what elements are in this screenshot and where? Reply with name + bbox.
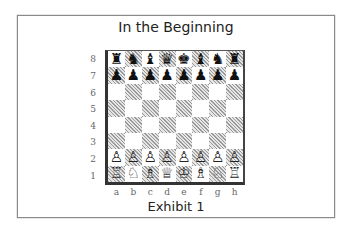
white-pawn-icon: ♙ (160, 150, 173, 165)
black-knight-icon: ♞ (211, 52, 224, 67)
rank-label-1: 1 (88, 171, 98, 181)
square-h7: ♟ (226, 67, 243, 83)
white-rook-icon: ♖ (110, 166, 123, 181)
square-e5 (176, 100, 193, 116)
square-d8: ♛ (159, 51, 176, 67)
square-e2: ♙ (176, 149, 193, 165)
white-queen-icon: ♕ (160, 166, 173, 181)
rank-label-2: 2 (88, 154, 98, 164)
square-c2: ♙ (142, 149, 159, 165)
square-a4 (108, 117, 125, 133)
square-c7: ♟ (142, 67, 159, 83)
black-pawn-icon: ♟ (177, 68, 190, 83)
rank-label-5: 5 (88, 104, 98, 114)
square-d5 (159, 100, 176, 116)
square-a3 (108, 133, 125, 149)
black-bishop-icon: ♝ (194, 52, 207, 67)
exhibit-caption: Exhibit 1 (17, 199, 335, 215)
square-h5 (226, 100, 243, 116)
square-g8: ♞ (209, 51, 226, 67)
square-b5 (125, 100, 142, 116)
square-a7: ♟ (108, 67, 125, 83)
black-knight-icon: ♞ (127, 52, 140, 67)
white-bishop-icon: ♗ (194, 166, 207, 181)
square-h4 (226, 117, 243, 133)
square-h3 (226, 133, 243, 149)
square-h1: ♖ (226, 166, 243, 182)
square-f1: ♗ (192, 166, 209, 182)
file-label-h: h (227, 187, 243, 197)
square-f2: ♙ (192, 149, 209, 165)
rank-label-4: 4 (88, 121, 98, 131)
square-b4 (125, 117, 142, 133)
square-c5 (142, 100, 159, 116)
square-g2: ♙ (209, 149, 226, 165)
file-label-d: d (159, 187, 175, 197)
square-c3 (142, 133, 159, 149)
square-b1: ♘ (125, 166, 142, 182)
square-h6 (226, 84, 243, 100)
square-c6 (142, 84, 159, 100)
file-label-c: c (142, 187, 158, 197)
square-e4 (176, 117, 193, 133)
white-pawn-icon: ♙ (194, 150, 207, 165)
white-pawn-icon: ♙ (127, 150, 140, 165)
black-pawn-icon: ♟ (127, 68, 140, 83)
square-f4 (192, 117, 209, 133)
white-pawn-icon: ♙ (110, 150, 123, 165)
file-label-e: e (176, 187, 192, 197)
rank-label-7: 7 (88, 71, 98, 81)
square-d4 (159, 117, 176, 133)
square-a8: ♜ (108, 51, 125, 67)
black-queen-icon: ♛ (160, 52, 173, 67)
square-b8: ♞ (125, 51, 142, 67)
black-pawn-icon: ♟ (211, 68, 224, 83)
square-c1: ♗ (142, 166, 159, 182)
square-a5 (108, 100, 125, 116)
square-g4 (209, 117, 226, 133)
square-b7: ♟ (125, 67, 142, 83)
square-e6 (176, 84, 193, 100)
file-label-f: f (193, 187, 209, 197)
black-pawn-icon: ♟ (194, 68, 207, 83)
rank-label-8: 8 (88, 54, 98, 64)
chess-board: ♜♞♝♛♚♝♞♜♟♟♟♟♟♟♟♟♙♙♙♙♙♙♙♙♖♘♗♕♔♗♘♖ (105, 50, 245, 185)
square-f7: ♟ (192, 67, 209, 83)
rank-label-3: 3 (88, 137, 98, 147)
white-pawn-icon: ♙ (177, 150, 190, 165)
white-pawn-icon: ♙ (143, 150, 156, 165)
square-e7: ♟ (176, 67, 193, 83)
black-rook-icon: ♜ (110, 52, 123, 67)
square-h8: ♜ (226, 51, 243, 67)
square-b6 (125, 84, 142, 100)
diagram-title: In the Beginning (17, 15, 335, 37)
white-rook-icon: ♖ (228, 166, 241, 181)
white-pawn-icon: ♙ (228, 150, 241, 165)
black-pawn-icon: ♟ (110, 68, 123, 83)
square-f5 (192, 100, 209, 116)
square-h2: ♙ (226, 149, 243, 165)
black-pawn-icon: ♟ (160, 68, 173, 83)
square-g3 (209, 133, 226, 149)
square-f8: ♝ (192, 51, 209, 67)
square-f6 (192, 84, 209, 100)
square-a6 (108, 84, 125, 100)
square-d2: ♙ (159, 149, 176, 165)
white-pawn-icon: ♙ (211, 150, 224, 165)
black-king-icon: ♚ (177, 52, 190, 67)
square-b3 (125, 133, 142, 149)
square-g6 (209, 84, 226, 100)
white-king-icon: ♔ (177, 166, 190, 181)
square-c8: ♝ (142, 51, 159, 67)
square-g7: ♟ (209, 67, 226, 83)
square-d3 (159, 133, 176, 149)
file-label-g: g (210, 187, 226, 197)
square-b2: ♙ (125, 149, 142, 165)
square-e1: ♔ (176, 166, 193, 182)
square-g5 (209, 100, 226, 116)
square-e8: ♚ (176, 51, 193, 67)
square-g1: ♘ (209, 166, 226, 182)
square-d6 (159, 84, 176, 100)
white-bishop-icon: ♗ (143, 166, 156, 181)
square-a1: ♖ (108, 166, 125, 182)
